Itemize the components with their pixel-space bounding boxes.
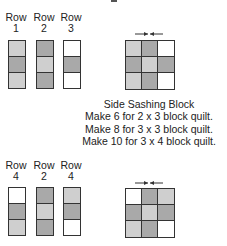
fabric-square bbox=[142, 221, 158, 237]
row-label: Row 3 bbox=[57, 12, 85, 34]
fabric-square bbox=[64, 204, 80, 220]
caption: Side Sashing Block Make 6 for 2 x 3 bloc… bbox=[60, 98, 227, 147]
fabric-square bbox=[64, 220, 80, 235]
fabric-square bbox=[126, 205, 142, 221]
fabric-square bbox=[9, 41, 25, 57]
row-number: 4 bbox=[57, 171, 85, 182]
row-number: 2 bbox=[30, 171, 58, 182]
press-arrows-icon bbox=[134, 31, 164, 37]
fabric-square bbox=[37, 220, 53, 235]
fabric-square bbox=[126, 221, 142, 237]
fabric-square bbox=[37, 41, 53, 57]
fabric-square bbox=[158, 57, 174, 73]
press-arrows-icon bbox=[134, 180, 164, 186]
fabric-square bbox=[142, 189, 158, 205]
fabric-square bbox=[64, 57, 80, 73]
row-label: Row 2 bbox=[30, 12, 58, 34]
row-strip bbox=[8, 40, 26, 89]
fabric-square bbox=[142, 205, 158, 221]
sashing-block-diagram bbox=[125, 40, 175, 90]
row-number: 2 bbox=[30, 23, 58, 34]
fabric-square bbox=[37, 73, 53, 88]
caption-line: Make 6 for 2 x 3 block quilt. bbox=[60, 110, 227, 122]
fabric-square bbox=[9, 73, 25, 88]
row-label: Row 2 bbox=[30, 160, 58, 182]
fabric-square bbox=[126, 57, 142, 73]
fabric-square bbox=[158, 189, 174, 205]
fabric-square bbox=[158, 221, 174, 237]
row-number: 3 bbox=[57, 23, 85, 34]
row-number: 1 bbox=[2, 23, 30, 34]
row-strip bbox=[36, 40, 54, 89]
fabric-square bbox=[9, 57, 25, 73]
fabric-square bbox=[64, 188, 80, 204]
fabric-square bbox=[9, 188, 25, 204]
fabric-square bbox=[9, 204, 25, 220]
row-label: Row 4 bbox=[57, 160, 85, 182]
row-label: Row 4 bbox=[2, 160, 30, 182]
fabric-square bbox=[142, 41, 158, 57]
row-label: Row 1 bbox=[2, 12, 30, 34]
fabric-square bbox=[37, 204, 53, 220]
row-strip bbox=[63, 187, 81, 236]
fabric-square bbox=[126, 41, 142, 57]
fabric-square bbox=[158, 73, 174, 89]
row-strip bbox=[63, 40, 81, 89]
fabric-square bbox=[9, 220, 25, 235]
row-strip bbox=[36, 187, 54, 236]
fabric-square bbox=[37, 188, 53, 204]
fabric-square bbox=[126, 73, 142, 89]
caption-line: Make 8 for 3 x 3 block quilt. bbox=[60, 123, 227, 135]
row-strip bbox=[8, 187, 26, 236]
fabric-square bbox=[158, 205, 174, 221]
caption-line: Make 10 for 3 x 4 block quilt. bbox=[60, 135, 227, 147]
fabric-square bbox=[37, 57, 53, 73]
fabric-square bbox=[142, 73, 158, 89]
row-number: 4 bbox=[2, 171, 30, 182]
fabric-square bbox=[64, 73, 80, 88]
cropped-mark bbox=[111, 0, 117, 2]
fabric-square bbox=[158, 41, 174, 57]
fabric-square bbox=[142, 57, 158, 73]
sashing-block-diagram bbox=[125, 188, 175, 238]
caption-title: Side Sashing Block bbox=[60, 98, 227, 110]
fabric-square bbox=[126, 189, 142, 205]
fabric-square bbox=[64, 41, 80, 57]
